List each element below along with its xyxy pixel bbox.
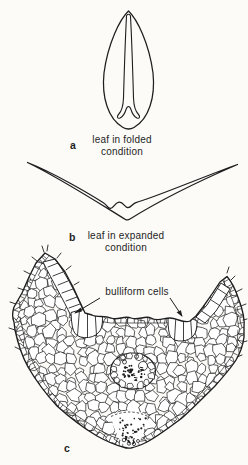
panel-a-caption-line1: leaf in folded	[92, 134, 152, 145]
expanded-leaf-outline	[28, 163, 238, 220]
figure-leaf-anatomy: a leaf in folded condition b leaf in exp…	[0, 0, 248, 465]
folded-leaf-slit	[117, 14, 139, 118]
panel-b-caption-line1: leaf in expanded	[88, 230, 165, 241]
bulliform-cells-annotation: bulliform cells	[105, 286, 169, 297]
folded-leaf-outline	[103, 11, 153, 129]
panel-b-label: b	[69, 231, 75, 243]
figure-canvas: a leaf in folded condition b leaf in exp…	[0, 0, 248, 465]
panel-a-caption-line2: condition	[101, 146, 143, 157]
panel-c-label: c	[64, 442, 70, 454]
panel-a-folded-leaf-drawing	[103, 11, 153, 129]
bulliform-arrowhead-right	[177, 310, 183, 317]
panel-c-cross-section-drawing	[0, 237, 248, 465]
panel-b-caption-line2: condition	[105, 242, 147, 253]
panel-a-label: a	[70, 139, 76, 151]
vascular-bundle	[110, 353, 155, 389]
panel-b-expanded-leaf-drawing	[28, 163, 238, 220]
